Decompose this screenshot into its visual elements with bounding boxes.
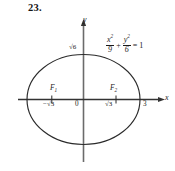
y-vertex-top-label: √6	[69, 43, 76, 51]
equation-equals-one: = 1	[132, 41, 144, 50]
equation-exponent-x: 2	[111, 33, 114, 39]
equation-denominator-x: 9	[106, 45, 114, 55]
focus-label-f2: F2	[110, 83, 117, 92]
equation-fraction-y: y2 6	[123, 36, 131, 54]
x-vertex-right-label: 3	[143, 100, 147, 108]
figure-container: 23. y x 0 3 √6 −√3 √3 F1 F2 x2 9 +	[0, 0, 175, 171]
equation-plus-operator: +	[116, 41, 122, 50]
x-focus-left-label: −√3	[43, 100, 54, 108]
equation-exponent-y: 2	[127, 33, 130, 39]
equation-numerator-y: y2	[123, 36, 131, 45]
focus-label-f1: F1	[50, 83, 57, 92]
equation-denominator-y: 6	[123, 45, 131, 55]
focus-letter-f2: F	[110, 83, 115, 92]
ellipse-graph-svg	[0, 0, 175, 171]
y-axis-label: y	[83, 15, 87, 24]
x-axis-arrowhead	[158, 97, 165, 102]
x-focus-right-label: √3	[105, 100, 112, 108]
focus-index-f2: 2	[115, 87, 118, 93]
ellipse-equation: x2 9 + y2 6 = 1	[106, 36, 144, 54]
origin-label: 0	[75, 100, 79, 108]
focus-index-f1: 1	[55, 87, 58, 93]
x-axis-label: x	[165, 93, 169, 102]
focus-letter-f1: F	[50, 83, 55, 92]
equation-fraction-x: x2 9	[106, 36, 114, 54]
equation-numerator-x: x2	[106, 36, 114, 45]
